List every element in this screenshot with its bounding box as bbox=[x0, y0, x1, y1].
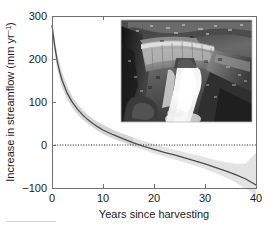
svg-text:Increase in streamflow (mm yr−: Increase in streamflow (mm yr−1) bbox=[4, 22, 17, 182]
y-tick-label-minus100: −100 bbox=[22, 182, 47, 194]
y-tick-label-300: 300 bbox=[29, 10, 47, 22]
x-tick-label-30: 30 bbox=[199, 192, 211, 204]
x-tick-label-10: 10 bbox=[97, 192, 109, 204]
y-axis-title: Increase in streamflow (mm yr−1) bbox=[4, 22, 17, 182]
x-axis-title: Years since harvesting bbox=[99, 208, 209, 220]
x-tick-label-0: 0 bbox=[49, 192, 55, 204]
chart-svg: 300 200 100 0 −100 0 10 20 30 40 Years s… bbox=[0, 0, 274, 228]
y-axis-title-main: Increase in streamflow (mm yr bbox=[4, 34, 16, 182]
y-axis-title-tail: ) bbox=[4, 22, 16, 26]
x-tick-label-40: 40 bbox=[250, 192, 262, 204]
y-tick-label-0: 0 bbox=[41, 139, 47, 151]
y-tick-label-100: 100 bbox=[29, 96, 47, 108]
x-tick-label-20: 20 bbox=[148, 192, 160, 204]
dam-spillway-photo bbox=[121, 20, 252, 126]
y-tick-label-200: 200 bbox=[29, 53, 47, 65]
y-axis-title-superscript: −1 bbox=[4, 26, 13, 35]
streamflow-figure: 300 200 100 0 −100 0 10 20 30 40 Years s… bbox=[0, 0, 274, 228]
